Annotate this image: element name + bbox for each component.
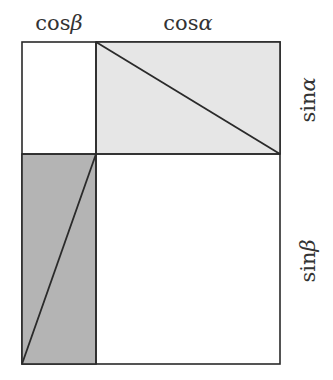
label-cos-beta: cosβ bbox=[35, 11, 82, 35]
label-sin-alpha: sinα bbox=[296, 77, 320, 122]
label-cos-alpha: cosα bbox=[163, 11, 212, 35]
trig-area-diagram: cosβ cosα sinα sinβ bbox=[0, 0, 333, 380]
label-sin-beta: sinβ bbox=[296, 239, 320, 282]
